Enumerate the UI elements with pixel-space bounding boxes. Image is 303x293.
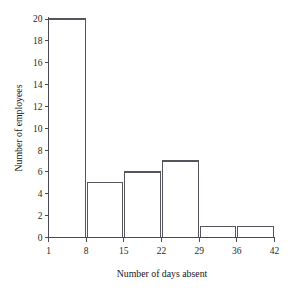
y-tick-label-6: 6 [38, 167, 43, 177]
plot-bars [49, 19, 274, 238]
x-tick-label-36: 36 [232, 246, 242, 256]
bar-15-22 [125, 172, 161, 238]
y-tick-labels: 02468101214161820 [33, 14, 43, 243]
y-tick-label-16: 16 [33, 58, 43, 68]
y-tick-label-18: 18 [33, 36, 43, 46]
y-tick-label-14: 14 [33, 80, 43, 90]
x-tick-label-29: 29 [194, 246, 204, 256]
chart-canvas: 02468101214161820 181522293642 Number of… [0, 0, 303, 293]
y-tick-label-10: 10 [33, 124, 43, 134]
bar-22-29 [163, 161, 199, 237]
y-tick-label-12: 12 [33, 102, 43, 112]
x-tick-label-1: 1 [46, 246, 51, 256]
y-tick-label-8: 8 [38, 146, 43, 156]
x-tick-labels: 181522293642 [46, 246, 279, 256]
x-tick-label-8: 8 [84, 246, 89, 256]
bar-36-42 [238, 227, 274, 238]
y-axis [45, 17, 49, 238]
x-tick-label-15: 15 [119, 246, 129, 256]
x-tick-label-22: 22 [157, 246, 167, 256]
x-axis [49, 238, 276, 242]
histogram-chart: 02468101214161820 181522293642 Number of… [0, 0, 303, 293]
y-tick-label-4: 4 [38, 189, 43, 199]
bar-1-8 [49, 19, 86, 238]
x-tick-marks [49, 238, 275, 242]
x-tick-label-42: 42 [270, 246, 280, 256]
x-axis-title: Number of days absent [117, 268, 208, 279]
y-tick-label-0: 0 [38, 233, 43, 243]
bar-29-36 [200, 227, 236, 238]
y-tick-label-2: 2 [38, 211, 43, 221]
y-axis-title: Number of employees [13, 84, 24, 171]
y-tick-label-20: 20 [33, 14, 43, 24]
bar-8-15 [87, 183, 123, 238]
